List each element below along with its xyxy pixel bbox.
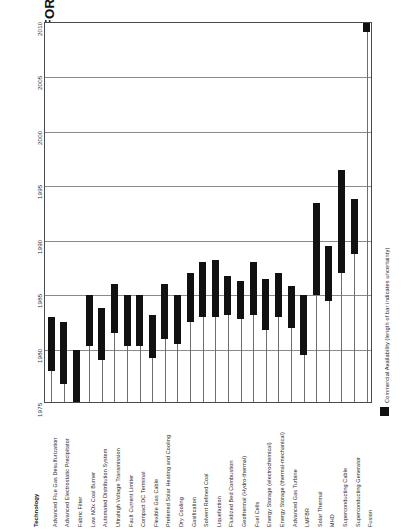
availability-bar [288,286,295,327]
category-stem [140,344,141,402]
availability-bar [212,260,219,317]
category-label: Liquefaction [209,409,220,529]
category-label: Advanced Gas Turbine [285,409,296,529]
availability-bar [300,295,307,355]
legend-label: Commercial Availability (length of bar i… [384,248,390,403]
category-stem [241,317,242,402]
category-stem [203,315,204,402]
category-stem [215,315,216,402]
year-tick-label: 1990 [0,236,40,243]
category-stem [228,313,229,402]
category-label: Fabric Filter [70,409,81,529]
gridline [45,186,371,187]
availability-bar [124,295,131,346]
category-stem [316,293,317,402]
category-label: Advanced Electrostatic Precipitator [57,409,68,529]
gridline [45,132,371,133]
year-tick-label: 1995 [0,181,40,188]
category-stem [190,320,191,402]
category-label: Fault Current Limiter [121,409,132,529]
availability-bar [363,23,370,32]
technology-column-header: Technology [26,409,37,529]
category-stem [127,344,128,402]
category-label: Low NOx Coal Burner [83,409,94,529]
category-stem [177,342,178,402]
availability-bar [262,279,269,330]
availability-bar [136,295,143,346]
year-tick-label: 2000 [0,127,40,134]
category-label: Superconducting Generator [348,409,359,529]
category-label: Ultrahigh Voltage Transmission [108,409,119,529]
availability-bar [325,246,332,300]
category-label: Automated Distribution System [95,409,106,529]
category-stem [102,358,103,402]
category-label: Energy Storage (thermal-mechanical) [272,409,283,529]
category-label: Advanced Flue Gas Desulfurization [45,409,56,529]
gridline [45,77,371,78]
category-stem [64,382,65,402]
year-tick-label: 2005 [0,72,40,79]
category-label: Solvent Refined Coal [196,409,207,529]
availability-bar [73,350,80,402]
availability-bar [149,315,156,359]
category-stem [291,326,292,402]
category-stem [152,356,153,402]
gridline [45,241,371,242]
category-stem [304,353,305,402]
category-stem [367,30,368,402]
category-label: Fluidized Bed Combustion [221,409,232,529]
availability-bar [237,281,244,319]
year-tick-label: 1980 [0,345,40,352]
category-label: Preferred Solar Heating and Cooling [158,409,169,529]
category-label: Fuel Cells [247,409,258,529]
gridline [45,350,371,351]
category-label: Fusion [360,409,371,529]
availability-bar [224,276,231,315]
category-label: MHD [322,409,333,529]
availability-bar [275,273,282,317]
category-stem [329,299,330,402]
availability-bar [161,284,168,338]
category-stem [341,271,342,402]
category-label: Gasification [184,409,195,529]
category-label: Dry Cooling [171,409,182,529]
availability-bar [250,262,257,314]
availability-bar [111,284,118,333]
year-tick-label: 1985 [0,290,40,297]
category-stem [51,369,52,402]
category-label: Geothermal (Hydro-thermal) [234,409,245,529]
category-stem [278,315,279,402]
availability-bar [174,295,181,344]
availability-bar [98,308,105,360]
plot-area [44,22,372,403]
category-stem [114,331,115,402]
availability-bar [60,322,67,384]
availability-bar [351,199,358,253]
legend-swatch-icon [380,407,389,416]
category-stem [253,313,254,402]
category-label: Superconducting Cable [335,409,346,529]
gridline [45,295,371,296]
category-stem [165,337,166,402]
availability-bar [338,170,345,273]
year-tick-label: 2010 [0,18,40,25]
category-stem [354,252,355,402]
category-label: Solar Thermal [310,409,321,529]
year-tick-label: 1975 [0,399,40,406]
category-stem [89,344,90,402]
legend: Commercial Availability (length of bar i… [378,246,400,416]
availability-bar [187,273,194,322]
technology-header-label: Technology [33,494,39,527]
availability-bar [199,262,206,316]
category-stem [266,328,267,402]
availability-bar [313,203,320,296]
chart-page: KEY TECHNOLOGICAL OPTIONS FOR THE UTILIT… [0,0,404,532]
category-label: Flexible Gas Cable [146,409,157,529]
category-label: LMFBR [297,409,308,529]
availability-bar [86,295,93,346]
category-label: Energy Storage (electrochemical) [259,409,270,529]
category-label: Compact DC Terminal [133,409,144,529]
availability-bar [48,317,55,371]
